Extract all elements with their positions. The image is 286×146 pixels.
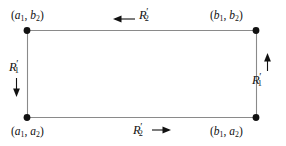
edge-right-sub: 1 [258,79,262,88]
corner-label-bottom-right: (b1, a2) [210,126,243,138]
corner-label-top-right: (b1, b2) [210,10,243,22]
vertex-bottom-right-dot [253,114,260,121]
rectangle-outline [27,30,257,118]
edge-bottom-sub: 2 [139,129,143,138]
edge-label-left: R′1 [9,61,19,74]
left-arrow-icon [113,16,135,23]
up-arrow-icon [264,53,271,71]
edge-top-sub: 2 [145,14,149,23]
vertex-bottom-left-dot [24,114,31,121]
corner-label-top-left: (a1, b2) [11,10,44,22]
edge-label-right: R′1 [252,74,262,87]
down-arrow-icon [13,78,20,97]
edge-label-top: R′2 [139,9,149,22]
vertex-top-left-dot [24,27,31,34]
direction-arrows [13,16,271,134]
right-arrow-icon [152,127,171,134]
rectangle-vertices [24,27,260,121]
rectangle-orientation-figure: (a1, b2) (b1, b2) (a1, a2) (b1, a2) R′2 … [0,0,286,146]
vertex-top-right-dot [253,27,260,34]
edge-label-bottom: R′2 [133,124,143,137]
corner-label-bottom-left: (a1, a2) [11,126,44,138]
edge-left-sub: 1 [15,66,19,75]
